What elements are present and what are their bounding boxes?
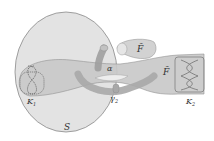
label-F-right: F̃ xyxy=(162,66,170,77)
label-K1-sub: 1 xyxy=(33,101,36,107)
tube-end-top xyxy=(117,43,127,55)
label-alpha: α xyxy=(107,64,113,73)
label-S: S xyxy=(64,122,70,132)
tube-end-alpha xyxy=(100,45,108,51)
label-gamma-sub: 2 xyxy=(114,98,118,104)
tube-gamma xyxy=(113,84,119,93)
label-K2-sub: 2 xyxy=(191,101,195,107)
topology-diagram: F̃ F̃ α γ 2 K 1 K 2 S xyxy=(0,0,214,141)
label-F-top: F̃ xyxy=(136,43,144,54)
